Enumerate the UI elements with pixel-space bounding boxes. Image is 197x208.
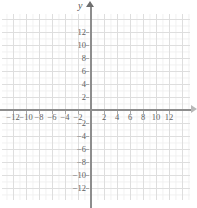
y-tick-label: 12 <box>62 28 86 37</box>
y-tick-label: 4 <box>62 80 86 89</box>
y-tickmark <box>86 188 89 189</box>
y-tickmark <box>86 84 89 85</box>
x-tick-label: 10 <box>152 113 161 122</box>
x-tick-label: 4 <box>115 113 119 122</box>
y-axis-line <box>90 6 92 208</box>
x-tick-label: −10 <box>19 113 32 122</box>
y-axis-arrowhead-icon <box>86 1 94 7</box>
x-tick-label: −12 <box>6 113 19 122</box>
x-axis-line <box>0 109 193 111</box>
x-tick-label: 12 <box>165 113 174 122</box>
x-tick-label: −6 <box>47 113 56 122</box>
y-tickmark <box>86 58 89 59</box>
y-tick-label: −4 <box>62 132 86 141</box>
x-tick-label: 2 <box>102 113 106 122</box>
y-tick-label: −8 <box>62 158 86 167</box>
y-tickmark <box>86 97 89 98</box>
y-tick-label: 6 <box>62 67 86 76</box>
y-tickmark <box>86 175 89 176</box>
y-tickmark <box>86 71 89 72</box>
y-axis-label: y <box>78 0 82 11</box>
y-tickmark <box>86 123 89 124</box>
y-tickmark <box>86 136 89 137</box>
y-tick-label: −10 <box>62 171 86 180</box>
y-tick-label: −12 <box>62 184 86 193</box>
grid-major-lines <box>2 14 190 200</box>
x-tick-label: 6 <box>128 113 132 122</box>
x-tick-label: 8 <box>141 113 145 122</box>
coordinate-plane: y −12−10−8−6−4−224681012 12108642−2−4−6−… <box>0 0 197 208</box>
y-tick-label: −6 <box>62 145 86 154</box>
x-axis-arrowhead-icon <box>191 105 197 113</box>
y-tick-label: 2 <box>62 93 86 102</box>
y-tickmark <box>86 45 89 46</box>
y-tick-label: 10 <box>62 41 86 50</box>
y-tick-label: −2 <box>62 119 86 128</box>
y-tickmark <box>86 149 89 150</box>
x-tick-label: −8 <box>34 113 43 122</box>
y-tickmark <box>86 32 89 33</box>
y-tick-label: 8 <box>62 54 86 63</box>
y-tickmark <box>86 162 89 163</box>
